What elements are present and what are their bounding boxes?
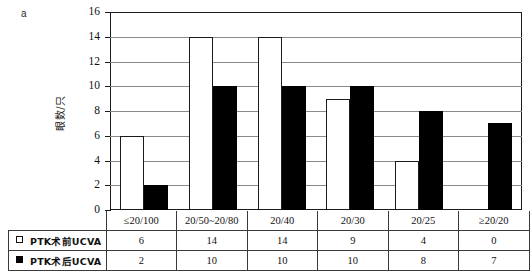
bar-group — [110, 12, 179, 210]
table-row: PTK术后UCVA 210101087 — [9, 251, 530, 271]
category-label: ≥20/20 — [479, 215, 509, 226]
open-square-icon — [16, 236, 23, 243]
bar-post-op — [419, 111, 443, 210]
table-cell-value: 0 — [459, 231, 530, 251]
bar-group — [453, 12, 522, 210]
table-header-cell: ≤20/100 — [106, 211, 177, 231]
table-cell-value: 4 — [388, 231, 459, 251]
bar-pre-op — [395, 161, 419, 211]
legend-label-post: PTK术后UCVA — [30, 256, 101, 267]
legend-item-pre: PTK术前UCVA — [9, 231, 107, 251]
table-header-cell: 20/40 — [247, 211, 318, 231]
bar-group — [179, 12, 248, 210]
table-cell-value: 2 — [106, 251, 177, 271]
bar-pre-op — [120, 136, 144, 210]
table-header-cell: 20/30 — [318, 211, 389, 231]
y-tick-label: 6 — [76, 130, 100, 142]
y-tick-label: 16 — [76, 6, 100, 18]
table-header-cell: 20/25 — [388, 211, 459, 231]
table-cell-value: 14 — [177, 231, 248, 251]
bar-pre-op — [258, 37, 282, 210]
bar-post-op — [144, 185, 168, 210]
data-table: ≤20/10020/50~20/8020/4020/3020/25≥20/20 … — [8, 211, 530, 271]
bar-post-op — [282, 86, 306, 210]
filled-square-icon — [16, 256, 23, 263]
bar-group — [247, 12, 316, 210]
bar-pre-op — [189, 37, 213, 210]
bar-post-op — [350, 86, 374, 210]
y-tick-label: 14 — [76, 31, 100, 43]
bar-pre-op — [326, 99, 350, 210]
table-header-cell: 20/50~20/80 — [177, 211, 248, 231]
y-tick-label: 10 — [76, 80, 100, 92]
y-tick-label: 12 — [76, 56, 100, 68]
legend-label-pre: PTK术前UCVA — [30, 236, 101, 247]
legend-item-post: PTK术后UCVA — [9, 251, 107, 271]
y-axis-title: 眼数/只 — [52, 78, 67, 148]
y-tick-label: 2 — [76, 179, 100, 191]
table-cell-value: 9 — [318, 231, 389, 251]
table-cell-value: 14 — [247, 231, 318, 251]
bar-post-op — [213, 86, 237, 210]
table-cell-value: 10 — [177, 251, 248, 271]
panel-letter: a — [21, 8, 27, 19]
plot-area — [110, 12, 522, 210]
category-label: ≤20/100 — [124, 215, 159, 226]
category-label: 20/25 — [411, 215, 435, 226]
table-cell-value: 10 — [247, 251, 318, 271]
bar-post-op — [488, 123, 512, 210]
table-corner-cell — [9, 211, 107, 231]
bar-group — [316, 12, 385, 210]
table-cell-value: 8 — [388, 251, 459, 271]
table-cell-value: 6 — [106, 231, 177, 251]
category-label: 20/30 — [341, 215, 365, 226]
table-header-cell: ≥20/20 — [459, 211, 530, 231]
category-label: 20/50~20/80 — [185, 215, 239, 226]
table-cell-value: 10 — [318, 251, 389, 271]
y-tick-label: 4 — [76, 155, 100, 167]
table-cell-value: 7 — [459, 251, 530, 271]
table-row: PTK术前UCVA 61414940 — [9, 231, 530, 251]
table-row-categories: ≤20/10020/50~20/8020/4020/3020/25≥20/20 — [9, 211, 530, 231]
category-label: 20/40 — [270, 215, 294, 226]
bar-group — [385, 12, 454, 210]
y-tick-label: 8 — [76, 105, 100, 117]
